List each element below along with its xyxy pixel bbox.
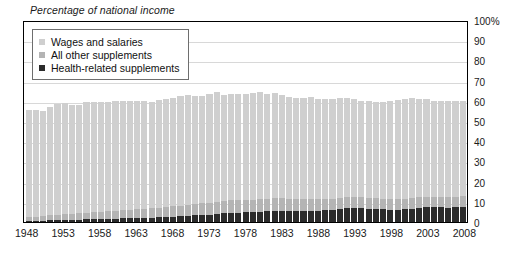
bar-segment <box>264 94 270 199</box>
bar-1969 <box>177 96 183 222</box>
bar-1956 <box>83 102 89 222</box>
bar-segment <box>423 207 429 222</box>
bar-segment <box>163 217 169 222</box>
bar-segment <box>127 218 133 222</box>
bar-segment <box>33 221 39 222</box>
bar-segment <box>308 97 314 199</box>
bar-segment <box>69 105 75 214</box>
bar-1982 <box>272 93 278 222</box>
bar-segment <box>322 99 328 199</box>
bar-1960 <box>112 101 118 222</box>
bar-segment <box>358 101 364 197</box>
bar-2004 <box>431 101 437 222</box>
bar-1973 <box>206 94 212 222</box>
bar-segment <box>141 218 147 222</box>
bar-segment <box>300 199 306 211</box>
bar-segment <box>250 93 256 199</box>
bar-segment <box>308 199 314 211</box>
bar-segment <box>387 210 393 222</box>
bar-segment <box>337 198 343 209</box>
bar-segment <box>185 205 191 216</box>
bar-segment <box>214 214 220 222</box>
bar-1955 <box>76 105 82 222</box>
bar-segment <box>366 101 372 197</box>
bar-1986 <box>300 98 306 222</box>
bar-segment <box>235 213 241 222</box>
bar-segment <box>206 203 212 215</box>
bar-segment <box>185 216 191 222</box>
x-axis-tick-label: 1953 <box>51 227 74 239</box>
bar-segment <box>300 211 306 222</box>
bar-segment <box>395 210 401 222</box>
bar-segment <box>445 197 451 208</box>
bar-1988 <box>315 99 321 222</box>
bar-1968 <box>170 98 176 222</box>
bar-segment <box>98 102 104 211</box>
bar-segment <box>192 215 198 222</box>
bar-segment <box>228 213 234 222</box>
bar-1953 <box>62 103 68 222</box>
bar-segment <box>83 102 89 212</box>
bar-segment <box>141 101 147 208</box>
bar-segment <box>120 210 126 218</box>
bar-segment <box>460 196 466 207</box>
bar-1962 <box>127 101 133 222</box>
bar-segment <box>329 199 335 210</box>
bar-segment <box>344 208 350 222</box>
bar-segment <box>373 198 379 209</box>
bar-segment <box>293 211 299 222</box>
bar-1970 <box>185 95 191 222</box>
bar-segment <box>134 218 140 222</box>
y-axis: 0102030405060708090100% <box>474 21 524 223</box>
bar-segment <box>69 220 75 222</box>
bar-segment <box>199 215 205 222</box>
bar-segment <box>112 101 118 211</box>
x-axis: 1948195319581963196819731978198319881993… <box>23 227 468 243</box>
bar-1950 <box>40 111 46 222</box>
bar-segment <box>206 94 212 202</box>
x-axis-tick-label: 1983 <box>270 227 293 239</box>
bar-segment <box>279 211 285 222</box>
bar-segment <box>112 219 118 222</box>
bar-1974 <box>214 92 220 222</box>
bar-segment <box>431 207 437 222</box>
chart-title: Percentage of national income <box>30 4 175 16</box>
bar-segment <box>395 100 401 199</box>
bar-segment <box>308 211 314 222</box>
bar-segment <box>358 197 364 208</box>
bar-segment <box>62 103 68 214</box>
bar-segment <box>40 111 46 216</box>
bar-segment <box>257 199 263 212</box>
y-axis-tick-label: 80 <box>474 56 485 67</box>
bar-1966 <box>156 100 162 222</box>
bar-1992 <box>344 98 350 222</box>
bar-segment <box>199 96 205 204</box>
bar-segment <box>279 198 285 211</box>
bar-segment <box>409 98 415 198</box>
bar-segment <box>416 99 422 197</box>
bar-segment <box>416 208 422 222</box>
x-axis-tick-label: 1958 <box>88 227 111 239</box>
bar-1971 <box>192 96 198 222</box>
bar-segment <box>395 199 401 209</box>
bar-segment <box>344 197 350 209</box>
bar-segment <box>54 220 60 222</box>
bar-1978 <box>243 94 249 222</box>
bar-1999 <box>395 100 401 222</box>
bar-segment <box>250 212 256 222</box>
bar-segment <box>402 199 408 209</box>
x-axis-tick-label: 1973 <box>197 227 220 239</box>
bar-segment <box>177 96 183 205</box>
bar-segment <box>206 215 212 222</box>
bar-segment <box>221 95 227 201</box>
bar-segment <box>315 199 321 210</box>
bar-segment <box>235 200 241 213</box>
bar-segment <box>228 200 234 213</box>
bar-segment <box>62 220 68 222</box>
bar-segment <box>149 208 155 217</box>
bar-segment <box>257 92 263 199</box>
x-axis-tick-label: 1948 <box>15 227 38 239</box>
legend-label: Health-related supplements <box>51 62 179 74</box>
bar-segment <box>156 217 162 222</box>
bar-segment <box>272 93 278 198</box>
